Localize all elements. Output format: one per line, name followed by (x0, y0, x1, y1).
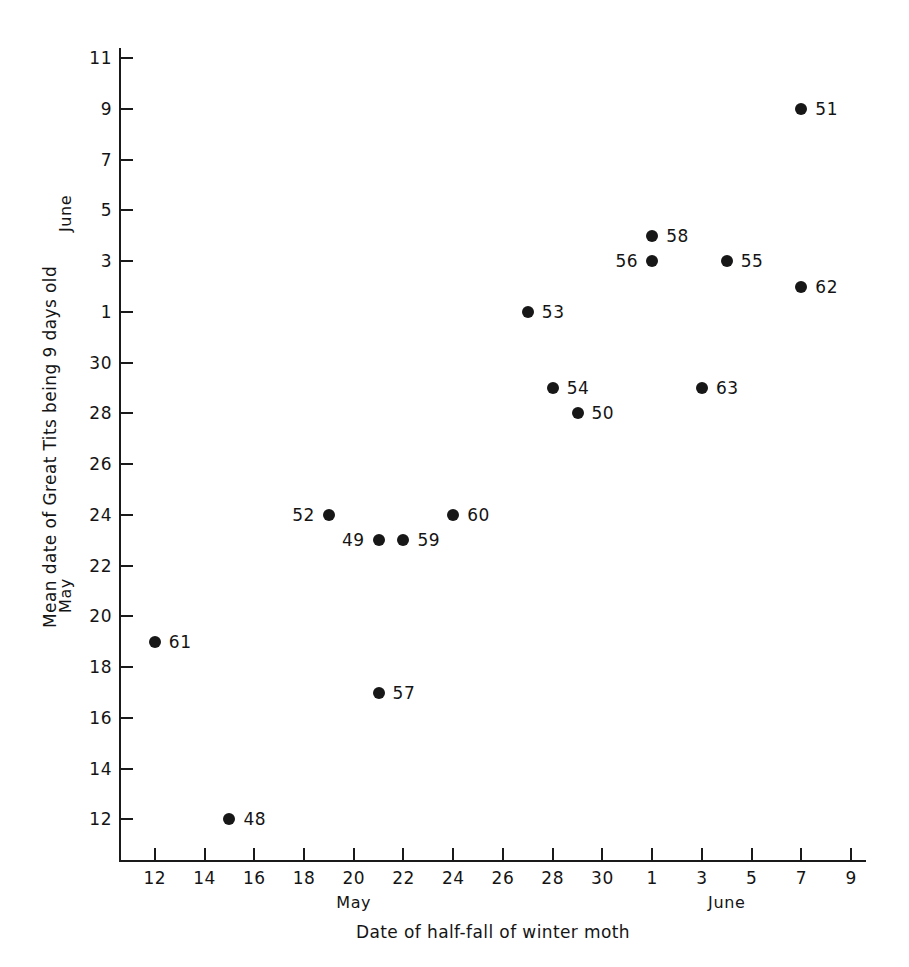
x-tick-mark (452, 848, 454, 860)
data-point-marker (795, 103, 807, 115)
data-point-marker (572, 407, 584, 419)
x-tick-label: 20 (342, 868, 365, 888)
data-point-label: 51 (815, 99, 838, 119)
y-tick-label: 3 (101, 251, 112, 271)
y-tick-mark (121, 818, 133, 820)
data-point-label: 60 (467, 505, 490, 525)
y-tick-mark (121, 666, 133, 668)
y-tick-mark (121, 311, 133, 313)
x-tick-mark (701, 848, 703, 860)
x-tick-label: 7 (796, 868, 807, 888)
y-tick-mark (121, 565, 133, 567)
y-tick-label: 14 (89, 759, 112, 779)
y-tick-mark (121, 615, 133, 617)
x-tick-label: 1 (646, 868, 657, 888)
x-tick-label: 5 (746, 868, 757, 888)
x-tick-label: 3 (696, 868, 707, 888)
x-tick-mark (601, 848, 603, 860)
y-tick-mark (121, 57, 133, 59)
y-axis-title: Mean date of Great Tits being 9 days old (40, 266, 60, 628)
y-tick-mark (121, 209, 133, 211)
x-tick-label: 22 (392, 868, 415, 888)
data-point-marker (323, 509, 335, 521)
data-point-label: 61 (169, 632, 192, 652)
x-tick-mark (303, 848, 305, 860)
x-tick-mark (402, 848, 404, 860)
data-point-label: 62 (815, 277, 838, 297)
y-tick-mark (121, 159, 133, 161)
data-point-marker (373, 534, 385, 546)
data-point-marker (646, 255, 658, 267)
y-tick-label: 11 (89, 48, 112, 68)
data-point-label: 48 (243, 809, 266, 829)
y-tick-label: 1 (101, 302, 112, 322)
data-point-label: 63 (716, 378, 739, 398)
data-point-marker (646, 230, 658, 242)
x-tick-mark (154, 848, 156, 860)
data-point-marker (795, 281, 807, 293)
data-point-label: 58 (666, 226, 689, 246)
x-tick-mark (800, 848, 802, 860)
y-tick-mark (121, 463, 133, 465)
x-tick-mark (651, 848, 653, 860)
y-tick-mark (121, 514, 133, 516)
y-tick-label: 16 (89, 708, 112, 728)
data-point-label: 50 (592, 403, 615, 423)
data-point-marker (149, 636, 161, 648)
x-tick-label: 26 (492, 868, 515, 888)
data-point-label: 55 (741, 251, 764, 271)
data-point-label: 53 (542, 302, 565, 322)
y-tick-label: 9 (101, 99, 112, 119)
y-tick-label: 7 (101, 150, 112, 170)
data-point-marker (447, 509, 459, 521)
x-tick-label: 28 (541, 868, 564, 888)
y-tick-label: 22 (89, 556, 112, 576)
x-tick-mark (204, 848, 206, 860)
scatter-plot-figure: 121416182022242628301357911 121416182022… (0, 0, 909, 967)
y-tick-mark (121, 362, 133, 364)
y-tick-mark (121, 108, 133, 110)
x-tick-mark (850, 848, 852, 860)
x-tick-mark (751, 848, 753, 860)
x-tick-label: 9 (845, 868, 856, 888)
x-tick-label: 14 (193, 868, 216, 888)
data-point-marker (721, 255, 733, 267)
y-tick-label: 20 (89, 606, 112, 626)
y-tick-label: 26 (89, 454, 112, 474)
data-point-label: 59 (417, 530, 440, 550)
x-axis-line (119, 860, 866, 862)
x-tick-label: 30 (591, 868, 614, 888)
x-tick-mark (353, 848, 355, 860)
x-axis-month-label: June (708, 893, 745, 912)
y-tick-label: 24 (89, 505, 112, 525)
x-tick-label: 24 (442, 868, 465, 888)
y-axis-line (119, 48, 121, 862)
data-point-label: 57 (393, 683, 416, 703)
y-tick-label: 18 (89, 657, 112, 677)
x-axis-month-label: May (336, 893, 371, 912)
y-tick-label: 28 (89, 403, 112, 423)
y-tick-mark (121, 260, 133, 262)
x-tick-mark (253, 848, 255, 860)
data-point-marker (373, 687, 385, 699)
data-point-marker (547, 382, 559, 394)
data-point-label: 54 (567, 378, 590, 398)
data-point-marker (696, 382, 708, 394)
data-point-label: 49 (342, 530, 365, 550)
x-tick-label: 18 (293, 868, 316, 888)
data-point-marker (522, 306, 534, 318)
data-point-marker (397, 534, 409, 546)
data-point-label: 52 (292, 505, 315, 525)
y-tick-label: 30 (89, 353, 112, 373)
x-tick-label: 12 (143, 868, 166, 888)
y-tick-mark (121, 412, 133, 414)
x-tick-mark (502, 848, 504, 860)
x-axis-title: Date of half-fall of winter moth (356, 922, 630, 942)
x-tick-label: 16 (243, 868, 266, 888)
data-point-label: 56 (616, 251, 639, 271)
data-point-marker (223, 813, 235, 825)
y-tick-label: 5 (101, 200, 112, 220)
x-tick-mark (552, 848, 554, 860)
y-tick-mark (121, 768, 133, 770)
y-axis-month-label: June (56, 195, 75, 232)
